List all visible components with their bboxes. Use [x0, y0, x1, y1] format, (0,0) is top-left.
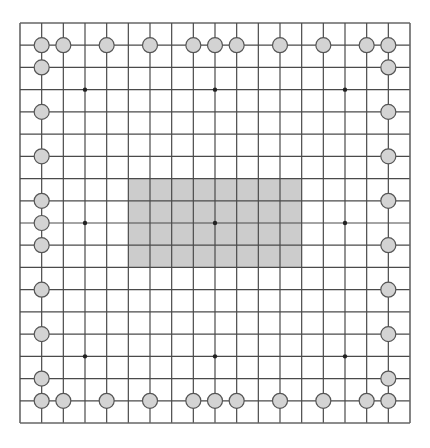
stone[interactable]	[34, 282, 49, 297]
stone[interactable]	[143, 393, 158, 408]
stone[interactable]	[34, 149, 49, 164]
stone[interactable]	[229, 38, 244, 53]
stone[interactable]	[34, 193, 49, 208]
stone[interactable]	[229, 393, 244, 408]
stone[interactable]	[34, 60, 49, 75]
stone[interactable]	[381, 371, 396, 386]
stone[interactable]	[34, 104, 49, 119]
stone[interactable]	[273, 393, 288, 408]
stone[interactable]	[143, 38, 158, 53]
stone[interactable]	[359, 393, 374, 408]
stone[interactable]	[381, 193, 396, 208]
star-point	[213, 221, 217, 225]
stone[interactable]	[381, 104, 396, 119]
star-point	[83, 354, 87, 358]
stone[interactable]	[56, 38, 71, 53]
stone[interactable]	[56, 393, 71, 408]
stone[interactable]	[208, 38, 223, 53]
stone[interactable]	[208, 393, 223, 408]
stone[interactable]	[34, 371, 49, 386]
stone[interactable]	[381, 327, 396, 342]
go-board[interactable]	[0, 0, 430, 448]
stone[interactable]	[34, 38, 49, 53]
stone[interactable]	[381, 149, 396, 164]
stone[interactable]	[381, 38, 396, 53]
star-point	[213, 87, 217, 91]
stone[interactable]	[99, 38, 114, 53]
stone[interactable]	[34, 393, 49, 408]
stone[interactable]	[34, 238, 49, 253]
stone[interactable]	[381, 393, 396, 408]
star-point	[213, 354, 217, 358]
stone[interactable]	[316, 38, 331, 53]
star-point	[83, 221, 87, 225]
star-point	[343, 87, 347, 91]
star-point	[343, 221, 347, 225]
stone[interactable]	[273, 38, 288, 53]
stone[interactable]	[34, 327, 49, 342]
star-point	[83, 87, 87, 91]
stone[interactable]	[316, 393, 331, 408]
stone[interactable]	[381, 60, 396, 75]
stone[interactable]	[99, 393, 114, 408]
stone[interactable]	[186, 393, 201, 408]
stone[interactable]	[381, 282, 396, 297]
stone[interactable]	[381, 238, 396, 253]
stone[interactable]	[186, 38, 201, 53]
star-point	[343, 354, 347, 358]
stone[interactable]	[34, 216, 49, 231]
stone[interactable]	[359, 38, 374, 53]
